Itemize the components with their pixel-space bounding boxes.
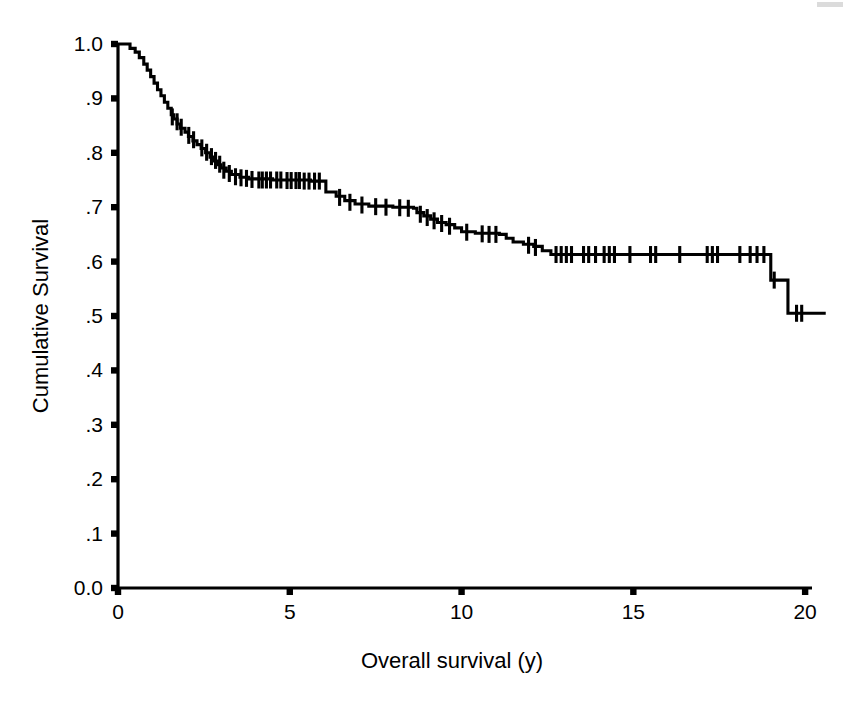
- x-tick-mark: [287, 588, 293, 595]
- survival-plot-figure: 0.0.1.2.3.4.5.6.7.8.91.0 Cumulative Surv…: [0, 0, 857, 723]
- x-tick-label: 15: [622, 600, 645, 623]
- y-tick-mark: [111, 258, 118, 264]
- y-tick-mark: [111, 367, 118, 373]
- x-tick-label: 5: [284, 600, 296, 623]
- x-tick-mark: [115, 588, 121, 595]
- y-tick-mark: [111, 422, 118, 428]
- y-tick-label: .7: [85, 195, 103, 218]
- y-tick-mark: [111, 95, 118, 101]
- y-tick-mark: [111, 41, 118, 47]
- x-tick-mark: [458, 588, 464, 595]
- x-tick-label: 20: [793, 600, 816, 623]
- x-tick-label: 0: [112, 600, 124, 623]
- x-axis-title: Overall survival (y): [361, 648, 543, 673]
- x-tick-label: 10: [450, 600, 473, 623]
- y-tick-label: .9: [85, 86, 103, 109]
- y-tick-mark: [111, 476, 118, 482]
- y-tick-label: .2: [85, 467, 103, 490]
- y-tick-label: .5: [85, 304, 103, 327]
- y-tick-mark: [111, 530, 118, 536]
- chart-background: [0, 0, 857, 723]
- y-tick-label: .4: [85, 358, 103, 381]
- y-tick-mark: [111, 204, 118, 210]
- x-tick-mark: [802, 588, 808, 595]
- y-tick-mark: [111, 313, 118, 319]
- x-tick-mark: [630, 588, 636, 595]
- y-tick-mark: [111, 150, 118, 156]
- y-tick-label: .8: [85, 141, 103, 164]
- y-tick-label: .3: [85, 413, 103, 436]
- y-tick-label: 0.0: [74, 576, 103, 599]
- y-tick-label: 1.0: [74, 32, 103, 55]
- scan-artifact: [817, 2, 843, 7]
- y-tick-label: .6: [85, 250, 103, 273]
- y-tick-label: .1: [85, 522, 103, 545]
- y-axis-title: Cumulative Survival: [28, 219, 53, 413]
- kaplan-meier-chart: 0.0.1.2.3.4.5.6.7.8.91.0 Cumulative Surv…: [0, 0, 857, 723]
